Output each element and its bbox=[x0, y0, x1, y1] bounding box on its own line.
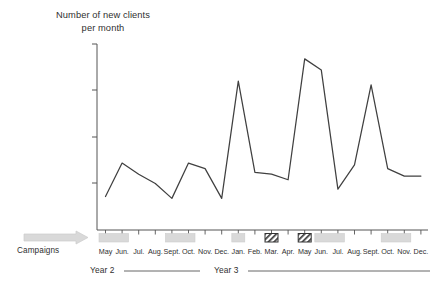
x-axis-month-label: Dec. bbox=[410, 247, 432, 256]
year-label-year3: Year 3 bbox=[214, 265, 239, 275]
campaign-bar bbox=[315, 234, 345, 243]
x-axis-ticks bbox=[106, 230, 421, 235]
y-axis-ticks bbox=[92, 44, 97, 183]
chart-title: Number of new clients per month bbox=[30, 9, 176, 34]
chart-container: Number of new clients per month bbox=[0, 0, 444, 290]
campaigns-label: Campaigns bbox=[17, 246, 59, 255]
data-series-line bbox=[106, 59, 421, 199]
campaign-bar bbox=[298, 234, 311, 243]
campaign-bar bbox=[99, 234, 129, 243]
campaign-bar bbox=[265, 234, 278, 243]
chart-title-line-2: per month bbox=[30, 22, 176, 35]
campaign-bar bbox=[232, 234, 245, 243]
campaign-bars bbox=[99, 234, 411, 243]
chart-title-line-1: Number of new clients bbox=[30, 9, 176, 22]
campaigns-arrow bbox=[24, 231, 88, 244]
campaign-bar bbox=[381, 234, 411, 243]
year-label-year2: Year 2 bbox=[90, 265, 115, 275]
campaign-bar bbox=[165, 234, 195, 243]
